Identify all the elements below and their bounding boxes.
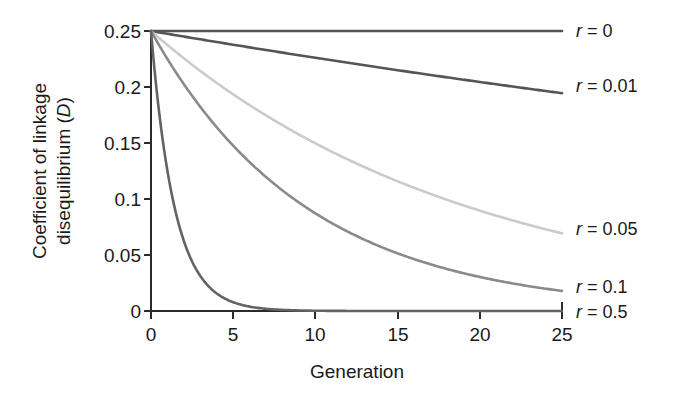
series-label-r-0.1-value: = 0.1 bbox=[582, 277, 628, 297]
y-axis-title-line2-prefix: disequilibrium ( bbox=[53, 116, 74, 244]
linkage-disequilibrium-chart: Coefficient of linkage disequilibrium (D… bbox=[0, 0, 688, 395]
y-tick-label-0.05: 0.05 bbox=[104, 245, 141, 266]
x-tick-label-25: 25 bbox=[551, 324, 572, 345]
series-label-r-0.05: r = 0.05 bbox=[576, 219, 638, 239]
x-tick-label-15: 15 bbox=[387, 324, 408, 345]
series-label-r-0-value: = 0 bbox=[582, 21, 613, 41]
y-axis-title-line1: Coefficient of linkage bbox=[29, 83, 50, 259]
x-tick-label-0: 0 bbox=[146, 324, 157, 345]
y-tick-label-0.1: 0.1 bbox=[115, 189, 141, 210]
x-tick-label-20: 20 bbox=[469, 324, 490, 345]
series-label-r-0.1: r = 0.1 bbox=[576, 277, 628, 297]
chart-background bbox=[0, 0, 688, 395]
y-axis-title-line2-suffix: ) bbox=[53, 97, 74, 103]
x-axis-title: Generation bbox=[310, 361, 404, 382]
y-tick-label-0.25: 0.25 bbox=[104, 21, 141, 42]
x-tick-label-10: 10 bbox=[304, 324, 325, 345]
y-tick-label-0.2: 0.2 bbox=[115, 77, 141, 98]
series-label-r-0.05-value: = 0.05 bbox=[582, 219, 638, 239]
y-axis-title-line2-italic: D bbox=[53, 103, 74, 117]
chart-figure: Coefficient of linkage disequilibrium (D… bbox=[0, 0, 688, 395]
y-tick-label-0: 0 bbox=[130, 301, 141, 322]
x-tick-label-5: 5 bbox=[228, 324, 239, 345]
series-label-r-0.5: r = 0.5 bbox=[576, 302, 628, 322]
series-label-r-0.01-value: = 0.01 bbox=[582, 76, 638, 96]
series-label-r-0.01: r = 0.01 bbox=[576, 76, 638, 96]
y-tick-label-0.15: 0.15 bbox=[104, 133, 141, 154]
series-label-r-0.5-value: = 0.5 bbox=[582, 302, 628, 322]
series-label-r-0: r = 0 bbox=[576, 21, 613, 41]
y-axis-title-line2: disequilibrium (D) bbox=[53, 97, 74, 245]
